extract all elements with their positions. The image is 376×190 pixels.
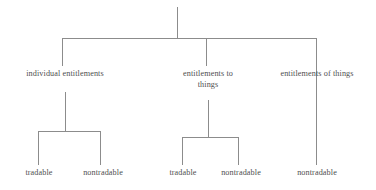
node-entitlements-of-things: entitlements of things xyxy=(262,68,372,79)
node-of-things-nontradable: nontradable xyxy=(282,167,352,178)
node-individual-nontradable: nontradable xyxy=(68,167,138,178)
tree-connector-lines xyxy=(0,0,376,190)
tree-diagram: individual entitlements entitlements to … xyxy=(0,0,376,190)
node-entitlements-to-things: entitlements to things xyxy=(168,68,248,90)
node-to-things-nontradable: nontradable xyxy=(206,167,276,178)
node-individual-tradable: tradable xyxy=(8,167,70,178)
node-to-things-tradable: tradable xyxy=(152,167,214,178)
node-individual-entitlements: individual entitlements xyxy=(4,68,126,79)
